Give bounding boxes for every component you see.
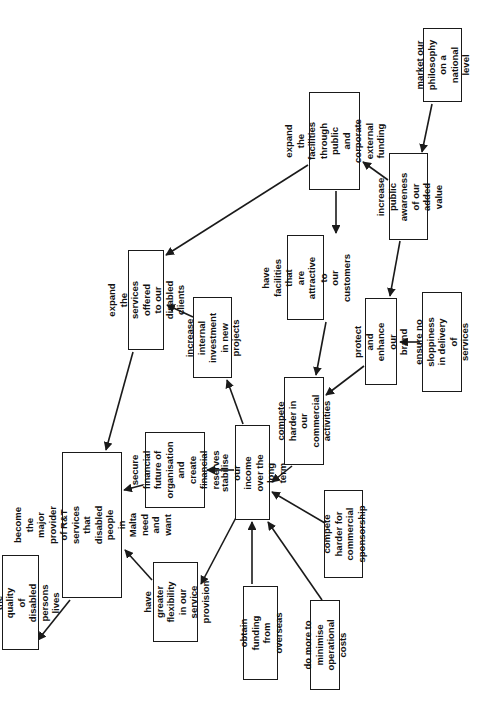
- node-stabilise-income: stabilise our income over the long term: [235, 425, 270, 520]
- node-internal-investment: increase internal investment in new proj…: [193, 297, 232, 378]
- node-label: compete harder for commercial sponsorshi…: [321, 505, 367, 562]
- node-label: market our philosophy on a national leve…: [414, 40, 472, 91]
- node-improve-quality: improve the quality of disabled persons …: [2, 555, 39, 650]
- node-label: improve the quality of disabled persons …: [0, 583, 61, 622]
- node-label: secure financial future of organisation …: [129, 441, 221, 498]
- arrow-stabilise-income-to-greater-flexibility: [201, 510, 240, 584]
- node-label: expand the facilities through public and…: [283, 119, 387, 163]
- node-public-awareness: increase public awareness of our added v…: [389, 153, 428, 240]
- node-label: do more to minimise operational costs: [302, 619, 348, 670]
- node-label: ensure no sloppiness in delivery of serv…: [413, 317, 471, 367]
- node-secure-financial: secure financial future of organisation …: [145, 432, 205, 508]
- node-label: compete harder in our commercial activit…: [275, 395, 333, 448]
- node-attractive-facilities: have facilities that are attractive to o…: [287, 235, 324, 320]
- node-minimise-costs: do more to minimise operational costs: [310, 600, 340, 690]
- node-greater-flexibility: have greater flexibility in our service …: [153, 562, 198, 642]
- node-protect-brand: protect and enhance our brand: [365, 298, 397, 385]
- node-compete-sponsorship: compete harder for commercial sponsorshi…: [324, 490, 363, 578]
- node-label: protect and enhance our brand: [352, 322, 410, 361]
- node-label: increase internal investment in new proj…: [184, 312, 242, 362]
- node-expand-facilities: expand the facilities through public and…: [309, 92, 360, 190]
- node-label: have facilities that are attractive to o…: [260, 253, 352, 301]
- node-label: stabilise our income over the long term: [218, 453, 287, 491]
- node-label: obtain funding from overseas: [238, 612, 284, 653]
- node-label: become the major provider of R&T service…: [12, 506, 173, 545]
- arrow-attractive-facilities-to-compete-commercial: [316, 322, 326, 375]
- node-label: have greater flexibility in our service …: [141, 581, 210, 624]
- arrow-greater-flexibility-to-major-provider: [125, 550, 152, 580]
- arrow-public-awareness-to-protect-brand: [390, 241, 400, 296]
- node-compete-commercial: compete harder in our commercial activit…: [284, 377, 324, 465]
- arrow-protect-brand-to-compete-commercial: [326, 366, 364, 395]
- node-no-sloppiness: ensure no sloppiness in delivery of serv…: [422, 292, 462, 392]
- node-expand-services: expand the services offered to our disab…: [128, 250, 164, 350]
- cognitive-map-canvas: improve the quality of disabled persons …: [0, 0, 477, 713]
- node-funding-overseas: obtain funding from overseas: [243, 586, 278, 680]
- arrow-stabilise-income-to-internal-investment: [227, 380, 243, 424]
- node-label: increase public awareness of our added v…: [374, 172, 443, 221]
- node-label: expand the services offered to our disab…: [106, 281, 187, 320]
- arrow-market-philosophy-to-public-awareness: [422, 104, 432, 152]
- arrow-expand-services-to-major-provider: [106, 352, 133, 450]
- node-market-philosophy: market our philosophy on a national leve…: [423, 28, 462, 102]
- node-major-provider: become the major provider of R&T service…: [62, 452, 122, 598]
